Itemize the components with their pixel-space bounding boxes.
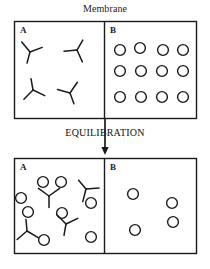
before-box-frame	[15, 22, 197, 119]
compartment-label-before-B: B	[110, 25, 116, 35]
equilibration-arrow	[101, 119, 108, 155]
molecule-arm	[26, 220, 27, 231]
solute-circle	[157, 66, 168, 77]
solute-circle	[178, 45, 189, 56]
solute-circle	[115, 92, 126, 103]
panel-before	[15, 22, 197, 119]
solute-circle	[16, 193, 27, 204]
solute-circle	[115, 45, 126, 56]
diagram-canvas: ABAB	[0, 0, 210, 269]
solute-circle	[128, 189, 139, 200]
solute-circle	[178, 66, 189, 77]
compartment-label-after-B: B	[110, 162, 116, 172]
solute-circle	[157, 92, 168, 103]
solute-circle	[167, 198, 178, 209]
arrow-head	[101, 147, 108, 155]
solute-circle	[115, 66, 126, 77]
osmosis-diagram: Membrane EQUILIBRATION ABAB	[0, 0, 210, 269]
solute-circle	[39, 235, 50, 246]
solute-circle	[130, 225, 141, 236]
solute-circle	[23, 207, 34, 218]
solute-circle	[178, 92, 189, 103]
solute-circle	[56, 177, 67, 188]
compartment-label-after-A: A	[20, 162, 27, 172]
solute-circle	[135, 43, 146, 54]
solute-circle	[86, 232, 97, 243]
solute-circle	[136, 92, 147, 103]
solute-circle	[38, 177, 49, 188]
solute-circle	[168, 217, 179, 228]
compartment-label-before-A: A	[20, 25, 27, 35]
solute-circle	[158, 45, 169, 56]
solute-circle	[86, 198, 97, 209]
solute-circle	[136, 66, 147, 77]
